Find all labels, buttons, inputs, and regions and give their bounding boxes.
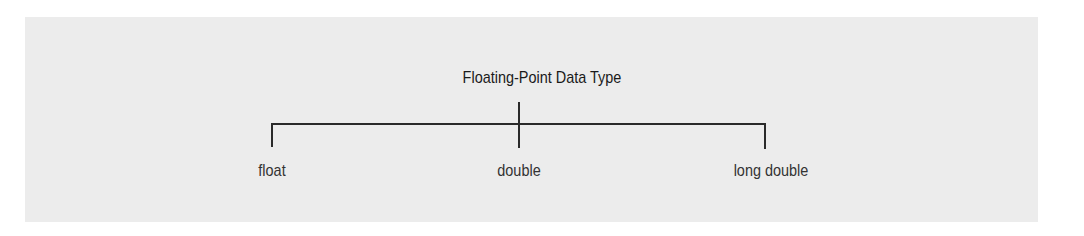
left-branch-drop	[271, 123, 273, 147]
right-branch-drop	[764, 123, 766, 149]
root-stem	[518, 102, 520, 148]
root-node-title: Floating-Point Data Type	[81, 68, 1002, 88]
child-node-long-double: long double	[734, 161, 809, 181]
child-node-double: double	[497, 161, 540, 181]
horizontal-connector	[271, 123, 766, 125]
diagram-panel	[25, 17, 1038, 222]
child-node-float: float	[258, 161, 285, 181]
